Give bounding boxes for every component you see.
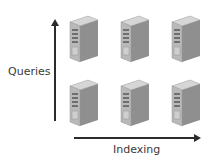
server-tower-icon [68, 12, 100, 64]
server-tower-icon [119, 12, 151, 64]
server-tower-icon [119, 76, 151, 128]
queries-axis-arrow [54, 24, 56, 121]
server-tower-icon [68, 76, 100, 128]
server-tower-icon [170, 12, 202, 64]
indexing-label: Indexing [113, 143, 160, 156]
indexing-arrow-head-icon [194, 134, 201, 142]
queries-arrow-head-icon [51, 19, 59, 26]
indexing-axis-arrow [74, 137, 196, 139]
queries-label: Queries [8, 65, 50, 78]
server-tower-icon [170, 76, 202, 128]
